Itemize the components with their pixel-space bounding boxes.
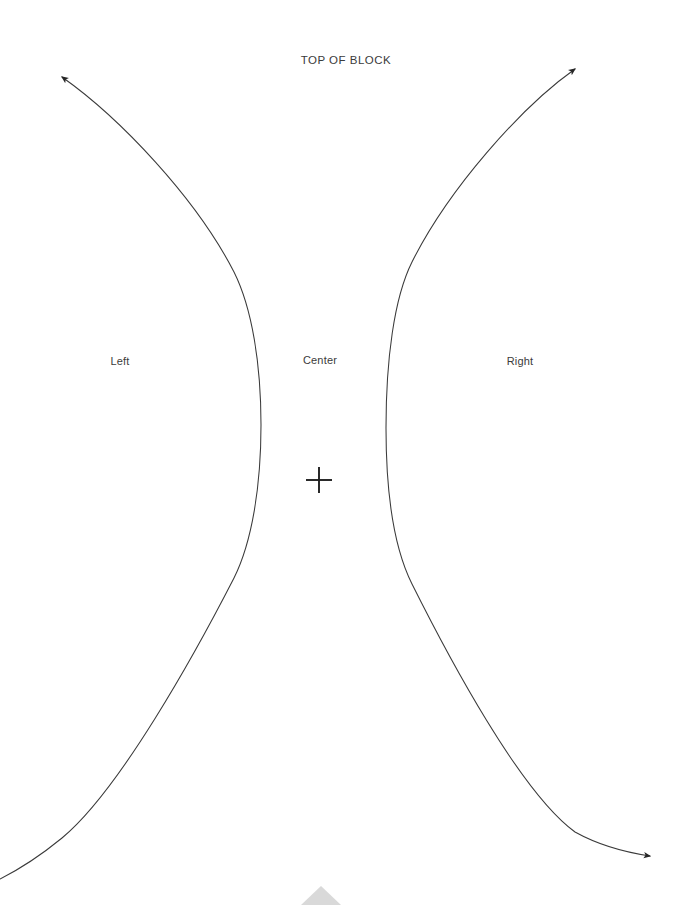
region-label-left: Left (0, 355, 240, 367)
page-scroll-triangle-icon[interactable] (301, 886, 341, 905)
page-title: TOP OF BLOCK (0, 54, 692, 66)
right-boundary-curve (386, 69, 650, 856)
block-boundary-diagram (0, 0, 692, 907)
region-label-right: Right (400, 355, 640, 367)
left-boundary-curve (0, 77, 261, 879)
document-page: TOP OF BLOCK Left Center Right (0, 0, 692, 907)
region-label-center: Center (260, 354, 380, 366)
center-plus-marker (306, 467, 332, 493)
